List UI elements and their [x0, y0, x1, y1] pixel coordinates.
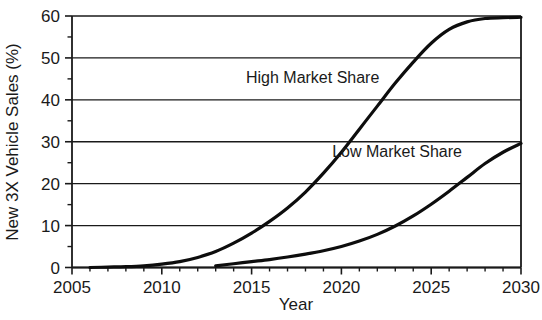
y-axis-major-ticks	[65, 16, 72, 268]
y-tick-label-40: 40	[41, 91, 60, 110]
y-tick-label-20: 20	[41, 175, 60, 194]
y-tick-label-50: 50	[41, 49, 60, 68]
y-axis-tick-labels: 0102030405060	[41, 7, 60, 278]
y-tick-label-30: 30	[41, 133, 60, 152]
x-tick-label-2030: 2030	[502, 278, 540, 297]
y-axis-title: New 3X Vehicle Sales (%)	[3, 43, 22, 240]
series-annotations-group: High Market ShareLow Market Share	[246, 69, 462, 160]
x-tick-label-2020: 2020	[322, 278, 360, 297]
x-axis-major-ticks	[72, 268, 521, 275]
x-tick-label-2025: 2025	[412, 278, 450, 297]
y-tick-label-0: 0	[51, 259, 60, 278]
low-market-share-annotation: Low Market Share	[332, 143, 462, 160]
series-line-low-market-share	[216, 143, 521, 265]
y-tick-label-60: 60	[41, 7, 60, 26]
chart-container: 0102030405060 200520102015202020252030 H…	[0, 0, 542, 320]
x-axis-title: Year	[279, 295, 314, 314]
x-tick-label-2005: 2005	[53, 278, 91, 297]
line-chart: 0102030405060 200520102015202020252030 H…	[0, 0, 542, 320]
x-axis-tick-labels: 200520102015202020252030	[53, 278, 540, 297]
x-tick-label-2010: 2010	[143, 278, 181, 297]
y-tick-label-10: 10	[41, 217, 60, 236]
x-tick-label-2015: 2015	[233, 278, 271, 297]
gridlines-group	[72, 16, 521, 268]
high-market-share-annotation: High Market Share	[246, 69, 379, 86]
